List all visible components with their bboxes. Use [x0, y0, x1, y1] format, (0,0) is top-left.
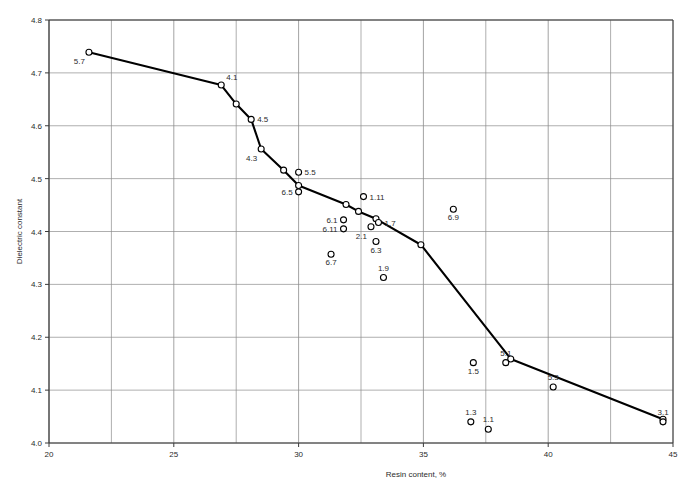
data-point-marker[interactable]	[356, 208, 362, 214]
data-point-label: 6.5	[281, 188, 293, 197]
y-axis-title: Dielectric constant	[15, 198, 24, 264]
data-point-marker[interactable]	[341, 226, 347, 232]
data-point-marker[interactable]	[373, 239, 379, 245]
data-point-label: 4.1	[226, 73, 238, 82]
data-point-marker[interactable]	[360, 194, 366, 200]
data-point-marker[interactable]	[258, 146, 264, 152]
data-point-label: 4.5	[257, 115, 269, 124]
y-tick-label: 4.0	[31, 439, 43, 448]
data-point-label: 5.1	[500, 349, 512, 358]
data-point-marker[interactable]	[375, 220, 381, 226]
x-axis-ticks: 202530354045	[45, 443, 678, 459]
data-point-marker[interactable]	[418, 242, 424, 248]
data-point-marker[interactable]	[296, 169, 302, 175]
data-point-label: 1.9	[378, 264, 390, 273]
y-tick-label: 4.3	[31, 280, 43, 289]
data-point-marker[interactable]	[341, 217, 347, 223]
data-point-label: 2.1	[356, 232, 368, 241]
data-point-label: 3.1	[657, 408, 669, 417]
series-2: 5.56.51.116.16.111.72.16.36.71.96.91.55.…	[281, 168, 669, 432]
x-axis-title: Resin content, %	[386, 470, 446, 479]
x-tick-label: 30	[294, 450, 303, 459]
data-point-label: 5.3	[548, 373, 560, 382]
data-point-marker[interactable]	[503, 360, 509, 366]
data-point-label: 1.11	[369, 193, 385, 202]
data-point-marker[interactable]	[450, 206, 456, 212]
y-tick-label: 4.5	[31, 175, 43, 184]
data-point-marker[interactable]	[368, 224, 374, 230]
data-point-marker[interactable]	[233, 101, 239, 107]
data-point-label: 1.7	[384, 219, 396, 228]
data-point-marker[interactable]	[470, 360, 476, 366]
data-point-label: 6.3	[370, 246, 382, 255]
data-point-marker[interactable]	[281, 167, 287, 173]
x-tick-label: 25	[169, 450, 178, 459]
data-point-marker[interactable]	[218, 82, 224, 88]
data-point-label: 5.7	[74, 57, 86, 66]
y-tick-label: 4.7	[31, 69, 43, 78]
x-tick-label: 20	[45, 450, 54, 459]
data-point-label: 6.11	[323, 225, 339, 234]
data-point-marker[interactable]	[248, 116, 254, 122]
y-tick-label: 4.4	[31, 228, 43, 237]
data-point-marker[interactable]	[380, 275, 386, 281]
data-point-marker[interactable]	[296, 189, 302, 195]
y-tick-label: 4.2	[31, 333, 43, 342]
chart-canvas: 4.04.14.24.34.44.54.64.74.8202530354045R…	[0, 0, 688, 480]
data-line	[89, 52, 663, 419]
y-tick-label: 4.8	[31, 16, 43, 25]
x-tick-label: 40	[544, 450, 553, 459]
y-tick-label: 4.1	[31, 386, 43, 395]
y-tick-label: 4.6	[31, 122, 43, 131]
data-point-marker[interactable]	[485, 426, 491, 432]
data-point-marker[interactable]	[468, 419, 474, 425]
data-point-label: 6.7	[325, 258, 337, 267]
data-point-marker[interactable]	[296, 182, 302, 188]
data-point-marker[interactable]	[660, 419, 666, 425]
data-point-marker[interactable]	[550, 384, 556, 390]
series-1: 5.74.14.54.3	[74, 49, 666, 422]
chart-figure: 4.04.14.24.34.44.54.64.74.8202530354045R…	[0, 0, 688, 480]
data-point-label: 1.1	[483, 415, 495, 424]
x-tick-label: 45	[669, 450, 678, 459]
data-point-label: 1.5	[468, 367, 480, 376]
x-tick-label: 35	[419, 450, 428, 459]
data-point-marker[interactable]	[86, 49, 92, 55]
data-point-marker[interactable]	[343, 202, 349, 208]
data-point-label: 5.5	[305, 168, 317, 177]
data-point-marker[interactable]	[328, 251, 334, 257]
data-point-label: 6.9	[448, 213, 460, 222]
data-point-label: 1.3	[465, 408, 477, 417]
y-axis-ticks: 4.04.14.24.34.44.54.64.74.8	[31, 16, 49, 448]
data-point-label: 4.3	[246, 154, 258, 163]
data-point-label: 6.1	[326, 216, 338, 225]
